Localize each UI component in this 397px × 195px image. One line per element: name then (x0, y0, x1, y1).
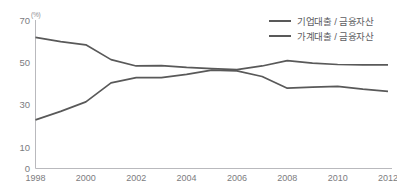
legend-label-corporate: 기업대출 / 금융자산 (297, 14, 374, 28)
legend-swatch-household (269, 35, 291, 37)
legend-label-household: 가계대출 / 금융자산 (297, 29, 374, 43)
y-tick-label: 30 (19, 99, 30, 110)
series-paths (36, 37, 389, 119)
x-tick-label: 2006 (227, 173, 247, 183)
x-tick-label: 2008 (277, 173, 297, 183)
x-tick-label: 2012 (378, 173, 397, 183)
x-tick-label: 1998 (25, 173, 45, 183)
y-tick-label: 50 (19, 57, 30, 68)
series-line-household (36, 70, 389, 120)
chart-container: (%) 705030100 19982000200220042006200820… (0, 0, 397, 195)
legend-item-corporate[interactable]: 기업대출 / 금융자산 (269, 14, 394, 28)
y-tick-label: 10 (19, 142, 30, 153)
x-tick-label: 2004 (177, 173, 197, 183)
x-tick-labels: 19982000200220042006200820102012 (25, 173, 397, 183)
x-tick-label: 2002 (126, 173, 146, 183)
y-tick-labels: 705030100 (19, 15, 30, 174)
x-tick-label: 2010 (328, 173, 348, 183)
y-tick-label: 70 (19, 15, 30, 26)
chart-legend: 기업대출 / 금융자산 가계대출 / 금융자산 (269, 14, 394, 44)
x-tick-label: 2000 (76, 173, 96, 183)
legend-swatch-corporate (269, 20, 291, 22)
legend-item-household[interactable]: 가계대출 / 금융자산 (269, 29, 394, 43)
